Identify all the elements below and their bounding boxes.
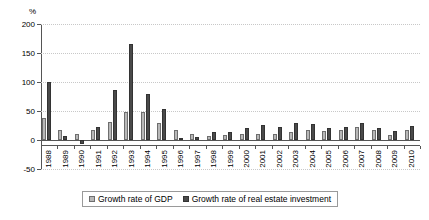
y-axis-tick-label: 200 [22,20,35,29]
bar-gdp [174,130,178,140]
bar-real-estate-investment [179,138,183,140]
x-axis-tick-mark [288,146,289,149]
legend-label-real-estate-investment: Growth rate of real estate investment [192,194,331,204]
x-axis-tick-label: 2001 [259,150,267,168]
legend-swatch-gdp-icon [89,196,95,202]
bar-gdp [273,134,277,140]
bar-real-estate-investment [162,109,166,140]
y-axis-unit-label: % [29,8,36,16]
x-axis-tick-mark [272,146,273,149]
x-axis-tick-label: 1989 [62,150,70,168]
x-axis-tick-label: 2003 [292,150,300,168]
bar-gdp [58,130,62,140]
bar-real-estate-investment [294,123,298,140]
legend-item-real-estate-investment: Growth rate of real estate investment [183,194,331,204]
bar-gdp [207,136,211,140]
x-axis-tick-label: 2006 [342,150,350,168]
bar-gdp [240,134,244,140]
x-axis-tick-mark [107,146,108,149]
bar-real-estate-investment [344,127,348,140]
x-axis-tick-label: 1994 [144,150,152,168]
legend-item-gdp: Growth rate of GDP [89,194,173,204]
legend-swatch-real-estate-investment-icon [183,196,189,202]
x-axis-tick-mark [420,146,421,149]
x-axis-tick-label: 1992 [111,150,119,168]
x-axis-tick-mark [338,146,339,149]
bar-real-estate-investment [228,132,232,140]
bar-real-estate-investment [146,94,150,140]
bar-real-estate-investment [63,136,67,140]
bar-real-estate-investment [47,82,51,140]
x-axis-tick-mark [189,146,190,149]
bar-real-estate-investment [80,140,84,144]
x-axis-tick-label: 1995 [161,150,169,168]
x-axis-tick-label: 2010 [408,150,416,168]
x-axis-tick-mark [255,146,256,149]
bar-gdp [306,130,310,140]
y-axis-tick-label: 100 [22,78,35,87]
x-axis-tick-mark [156,146,157,149]
bar-gdp [91,130,95,140]
bar-real-estate-investment [245,128,249,140]
x-axis-tick-mark [74,146,75,149]
x-axis-tick-label: 2007 [358,150,366,168]
bar-real-estate-investment [327,128,331,140]
x-axis-tick-mark [239,146,240,149]
x-axis-tick-mark [41,146,42,149]
x-axis-tick-label: 1990 [78,150,86,168]
x-axis-tick-label: 1991 [95,150,103,168]
x-axis-tick-label: 1996 [177,150,185,168]
y-axis-tick-label: 50 [26,107,35,116]
bar-real-estate-investment [311,124,315,140]
x-axis-tick-mark [222,146,223,149]
bar-real-estate-investment [261,125,265,140]
x-axis-tick-label: 1999 [227,150,235,168]
x-axis-tick-mark [90,146,91,149]
y-axis-tick-label: -50 [23,165,35,174]
x-axis-tick-mark [354,146,355,149]
x-axis-tick-label: 1998 [210,150,218,168]
x-axis-tick-mark [57,146,58,149]
bar-gdp [42,118,46,140]
x-axis-labels: 1988198919901991199219931994199519961997… [41,146,420,186]
x-axis-tick-mark [173,146,174,149]
bar-real-estate-investment [393,131,397,140]
bar-gdp [75,134,79,140]
bar-gdp [322,131,326,140]
x-axis-tick-mark [371,146,372,149]
legend-label-gdp: Growth rate of GDP [98,194,173,204]
chart-legend: Growth rate of GDP Growth rate of real e… [82,191,338,207]
x-axis-tick-label: 2005 [325,150,333,168]
bar-gdp [141,112,145,140]
x-axis-tick-label: 2004 [309,150,317,168]
x-axis-tick-mark [387,146,388,149]
x-axis-tick-mark [140,146,141,149]
bar-gdp [157,123,161,140]
bar-gdp [223,135,227,140]
bar-gdp [339,130,343,140]
x-axis-tick-mark [123,146,124,149]
bar-gdp [388,135,392,140]
x-axis-tick-mark [206,146,207,149]
x-axis-tick-label: 2008 [375,150,383,168]
bar-real-estate-investment [113,90,117,140]
bar-real-estate-investment [360,123,364,140]
y-axis-tick-label: 150 [22,49,35,58]
y-axis-tick-label: 0 [31,136,35,145]
bar-chart: % -50050100150200 1988198919901991199219… [0,0,429,220]
x-axis-tick-label: 1988 [45,150,53,168]
bar-real-estate-investment [410,126,414,141]
bar-gdp [372,130,376,140]
x-axis-tick-label: 2002 [276,150,284,168]
x-axis-tick-label: 2009 [391,150,399,168]
bar-real-estate-investment [129,44,133,140]
x-axis-tick-mark [305,146,306,149]
bar-gdp [355,127,359,140]
x-axis-tick-mark [404,146,405,149]
bar-real-estate-investment [377,128,381,140]
bar-real-estate-investment [212,132,216,140]
x-axis-tick-label: 2000 [243,150,251,168]
x-axis-tick-label: 1993 [128,150,136,168]
bar-gdp [108,122,112,140]
bar-real-estate-investment [96,127,100,140]
